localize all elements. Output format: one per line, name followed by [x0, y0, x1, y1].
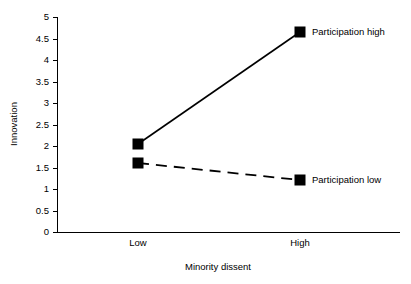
y-tick-label-0-5: 0.5	[36, 205, 49, 216]
y-tick-label-4: 4	[44, 54, 49, 65]
y-tick-label-3: 3	[44, 97, 49, 108]
y-tick-label-0: 0	[44, 226, 49, 237]
line-chart: 0 0.5 1 1.5 2 2.5 3 3.5 4 4.5 5 Innovati…	[0, 0, 411, 284]
series-low-marker-low	[133, 158, 144, 169]
series-high-marker-low	[133, 139, 144, 150]
y-tick-label-5: 5	[44, 11, 49, 22]
series-high-label: Participation high	[312, 26, 385, 37]
series-low-label: Participation low	[312, 174, 381, 185]
x-axis-title: Minority dissent	[185, 261, 251, 272]
y-tick-label-2-5: 2.5	[36, 119, 49, 130]
series-low-marker-high	[295, 175, 306, 186]
y-tick-label-4-5: 4.5	[36, 33, 49, 44]
y-tick-label-2: 2	[44, 140, 49, 151]
y-tick-label-3-5: 3.5	[36, 76, 49, 87]
chart-background	[0, 0, 411, 284]
y-axis-title: Innovation	[8, 102, 19, 146]
chart-canvas: 0 0.5 1 1.5 2 2.5 3 3.5 4 4.5 5 Innovati…	[0, 0, 411, 284]
x-tick-label-low: Low	[129, 237, 147, 248]
series-high-marker-high	[295, 27, 306, 38]
y-tick-label-1-5: 1.5	[36, 162, 49, 173]
y-tick-label-1: 1	[44, 183, 49, 194]
x-tick-label-high: High	[290, 237, 310, 248]
